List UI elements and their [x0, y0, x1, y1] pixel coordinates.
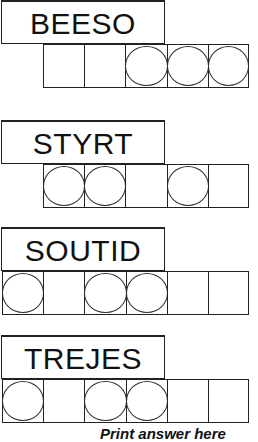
scrambled-word: STYRT: [1, 120, 165, 164]
circle-marker-icon: [84, 381, 126, 421]
letter-cell[interactable]: [208, 379, 249, 423]
answer-cells: [2, 271, 249, 315]
circle-marker-icon: [126, 273, 168, 313]
letter-cell[interactable]: [167, 379, 208, 423]
letter-cell[interactable]: [167, 271, 208, 315]
circled-letter-cell[interactable]: [167, 44, 208, 88]
answer-cells: [43, 44, 249, 88]
letter-cell[interactable]: [125, 164, 166, 208]
circled-letter-cell[interactable]: [2, 379, 43, 423]
print-answer-instruction: Print answer here: [100, 425, 226, 442]
letter-cell[interactable]: [43, 44, 84, 88]
circled-letter-cell[interactable]: [125, 44, 166, 88]
circle-marker-icon: [208, 46, 249, 86]
letter-cell[interactable]: [208, 164, 249, 208]
circle-marker-icon: [167, 166, 209, 206]
circle-marker-icon: [43, 166, 85, 206]
circled-letter-cell[interactable]: [2, 271, 43, 315]
circle-marker-icon: [2, 381, 44, 421]
circled-letter-cell[interactable]: [84, 164, 125, 208]
circled-letter-cell[interactable]: [208, 44, 249, 88]
circle-marker-icon: [126, 381, 168, 421]
letter-cell[interactable]: [84, 44, 125, 88]
circled-letter-cell[interactable]: [84, 271, 125, 315]
circle-marker-icon: [84, 273, 126, 313]
answer-cells: [2, 379, 249, 423]
circle-marker-icon: [125, 46, 167, 86]
letter-cell[interactable]: [208, 271, 249, 315]
letter-cell[interactable]: [43, 271, 84, 315]
circle-marker-icon: [2, 273, 44, 313]
letter-cell[interactable]: [43, 379, 84, 423]
answer-cells: [43, 164, 249, 208]
scrambled-word: SOUTID: [1, 227, 165, 271]
circle-marker-icon: [84, 166, 126, 206]
circled-letter-cell[interactable]: [126, 271, 167, 315]
circled-letter-cell[interactable]: [43, 164, 84, 208]
circled-letter-cell[interactable]: [84, 379, 125, 423]
circle-marker-icon: [167, 46, 209, 86]
circled-letter-cell[interactable]: [126, 379, 167, 423]
scrambled-word: BEESO: [1, 0, 165, 44]
circled-letter-cell[interactable]: [167, 164, 208, 208]
scrambled-word: TREJES: [1, 335, 165, 379]
